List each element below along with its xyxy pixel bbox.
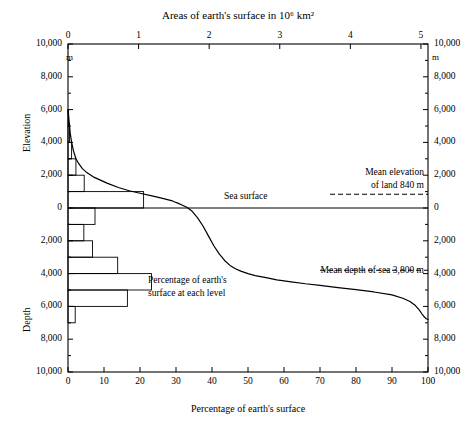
hypsographic-chart xyxy=(0,0,476,429)
right-axis-unit: m xyxy=(432,53,439,62)
left-axis-title-depth: Depth xyxy=(22,308,32,332)
right-tick-3: 4,000 xyxy=(434,138,455,148)
top-tick-3: 3 xyxy=(277,31,282,41)
bottom-tick-60: 60 xyxy=(279,377,289,387)
left-axis-title-elevation: Elevation xyxy=(22,114,32,152)
histogram-bar-9 xyxy=(68,257,118,273)
right-tick-4: 2,000 xyxy=(434,170,455,180)
histogram-label-line2: surface at each level xyxy=(148,289,225,299)
left-tick-0: 10,000 xyxy=(36,39,62,49)
bottom-tick-0: 0 xyxy=(66,377,71,387)
reference-lines xyxy=(320,194,428,270)
top-tick-5: 5 xyxy=(419,31,424,41)
left-tick-7: 4,000 xyxy=(41,269,62,279)
right-tick-2: 6,000 xyxy=(434,105,455,115)
hypsographic-curve xyxy=(68,110,428,320)
sea-surface-label: Sea surface xyxy=(224,192,268,202)
histogram-bar-7 xyxy=(68,224,84,240)
top-tick-4: 4 xyxy=(348,31,353,41)
histogram-bars xyxy=(68,110,152,323)
right-tick-9: 8,000 xyxy=(434,334,455,344)
bottom-tick-50: 50 xyxy=(243,377,253,387)
histogram-bar-12 xyxy=(68,306,75,322)
bottom-tick-70: 70 xyxy=(315,377,325,387)
histogram-label-line1: Percentage of earth's xyxy=(148,276,227,286)
bottom-tick-100: 100 xyxy=(421,377,435,387)
left-tick-10: 10,000 xyxy=(36,367,62,377)
right-tick-6: 2,000 xyxy=(434,236,455,246)
histogram-bar-4 xyxy=(68,175,84,191)
left-tick-2: 6,000 xyxy=(41,105,62,115)
left-tick-3: 4,000 xyxy=(41,138,62,148)
mean-elevation-label-line2: of land 840 m xyxy=(371,181,424,191)
right-tick-1: 8,000 xyxy=(434,72,455,82)
left-tick-1: 8,000 xyxy=(41,72,62,82)
right-tick-5: 0 xyxy=(434,203,439,213)
histogram-bar-6 xyxy=(68,208,95,224)
top-tick-2: 2 xyxy=(207,31,212,41)
bottom-tick-10: 10 xyxy=(99,377,109,387)
right-tick-8: 6,000 xyxy=(434,302,455,312)
bottom-tick-20: 20 xyxy=(135,377,145,387)
left-tick-5: 0 xyxy=(57,203,62,213)
bottom-axis-title: Percentage of earth's surface xyxy=(191,404,305,414)
histogram-bar-11 xyxy=(68,290,127,306)
right-tick-0: 10,000 xyxy=(434,39,460,49)
left-tick-8: 6,000 xyxy=(41,302,62,312)
top-tick-0: 0 xyxy=(66,31,71,41)
bottom-tick-40: 40 xyxy=(207,377,217,387)
left-tick-9: 8,000 xyxy=(41,334,62,344)
bottom-tick-30: 30 xyxy=(171,377,181,387)
histogram-bar-5 xyxy=(68,192,144,208)
histogram-bar-3 xyxy=(68,159,76,175)
histogram-bar-10 xyxy=(68,274,152,290)
bottom-tick-90: 90 xyxy=(387,377,397,387)
right-tick-10: 10,000 xyxy=(434,367,460,377)
left-tick-6: 2,000 xyxy=(41,236,62,246)
top-axis-ticks xyxy=(68,44,421,49)
mean-depth-label: Mean depth of sea 3,800 m xyxy=(321,266,424,276)
top-tick-1: 1 xyxy=(136,31,141,41)
bottom-tick-80: 80 xyxy=(351,377,361,387)
bottom-axis-ticks xyxy=(68,367,428,372)
left-axis-unit: m xyxy=(66,53,73,62)
histogram-bar-8 xyxy=(68,241,92,257)
mean-elevation-label-line1: Mean elevation xyxy=(365,168,424,178)
left-tick-4: 2,000 xyxy=(41,170,62,180)
right-tick-7: 4,000 xyxy=(434,269,455,279)
